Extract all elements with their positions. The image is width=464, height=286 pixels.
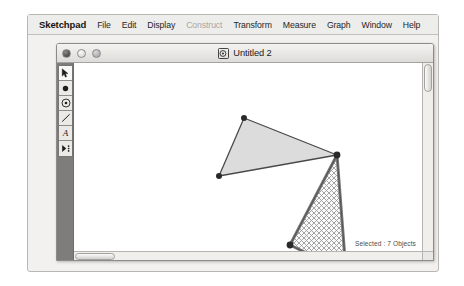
menu-item-edit[interactable]: Edit [122, 20, 137, 30]
menu-bar: Sketchpad File Edit Display Construct Tr… [28, 15, 438, 35]
text-a-icon: A [63, 129, 69, 138]
window-title: Untitled 2 [233, 48, 271, 58]
tool-arrow-select[interactable] [59, 66, 72, 81]
menu-item-construct: Construct [186, 20, 222, 30]
menu-item-file[interactable]: File [97, 20, 111, 30]
window-title-group: Untitled 2 [57, 44, 433, 62]
tool-point[interactable] [59, 81, 72, 96]
menu-item-display[interactable]: Display [147, 20, 175, 30]
vertex-d[interactable] [287, 242, 294, 249]
sketch-canvas[interactable]: Selected : 7 Objects [74, 63, 422, 251]
line-segment-icon [61, 113, 71, 123]
menu-item-help[interactable]: Help [403, 20, 420, 30]
tool-custom[interactable] [59, 141, 72, 156]
upper-triangle[interactable] [219, 118, 337, 176]
screenshot-root: Sketchpad File Edit Display Construct Tr… [0, 0, 464, 286]
arrow-select-icon [61, 68, 70, 78]
menu-item-measure[interactable]: Measure [283, 20, 316, 30]
desktop-window-frame: Sketchpad File Edit Display Construct Tr… [27, 14, 439, 272]
vertex-c[interactable] [334, 152, 341, 159]
point-icon [61, 84, 70, 93]
vertical-scrollbar[interactable] [422, 63, 433, 251]
tool-text[interactable]: A [59, 126, 72, 141]
sketch-drawing-area[interactable] [74, 63, 422, 251]
tool-compass[interactable] [59, 96, 72, 111]
status-selected-objects: Selected : 7 Objects [355, 240, 416, 247]
compass-document-icon [218, 48, 229, 59]
window-title-bar[interactable]: Untitled 2 [57, 44, 433, 63]
tool-palette: A [58, 65, 73, 157]
horizontal-scrollbar[interactable] [74, 251, 422, 261]
menu-item-sketchpad[interactable]: Sketchpad [39, 19, 86, 30]
window-body: A [57, 63, 433, 261]
horizontal-scrollbar-thumb[interactable] [75, 253, 115, 260]
custom-tool-icon [61, 144, 71, 153]
menu-item-window[interactable]: Window [362, 20, 392, 30]
menu-item-graph[interactable]: Graph [327, 20, 351, 30]
tool-palette-column: A [57, 63, 74, 261]
vertex-b[interactable] [216, 173, 222, 179]
scrollbar-corner [422, 251, 433, 261]
vertical-scrollbar-thumb[interactable] [424, 64, 432, 92]
document-window: Untitled 2 [56, 43, 434, 261]
compass-circle-icon [61, 98, 71, 108]
vertex-a[interactable] [241, 115, 247, 121]
menu-item-transform[interactable]: Transform [233, 20, 271, 30]
tool-straightedge[interactable] [59, 111, 72, 126]
